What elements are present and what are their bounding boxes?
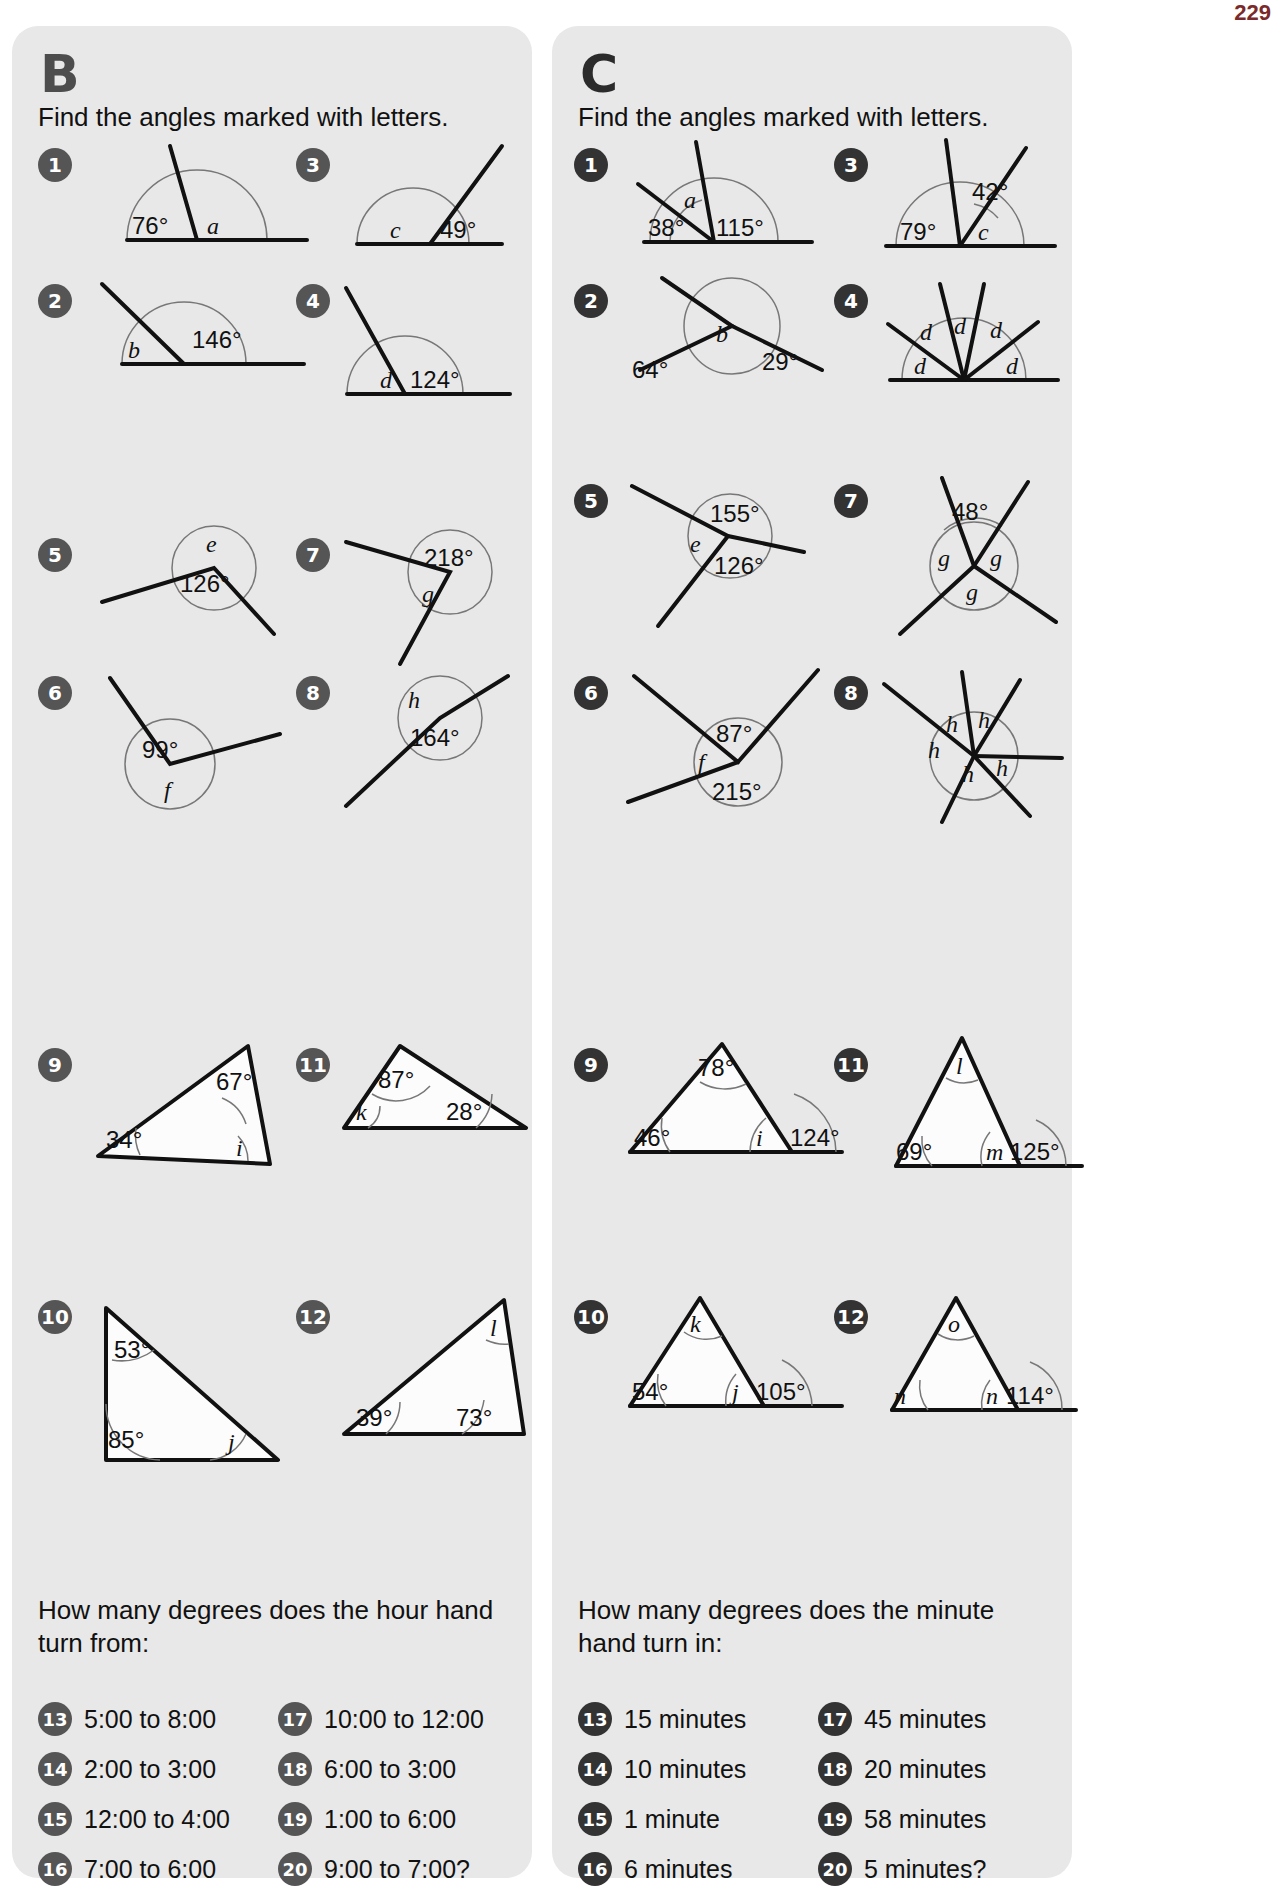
list-item[interactable]: 19 1:00 to 6:00: [278, 1802, 518, 1836]
figure-c10: k 54° j 105°: [614, 1288, 849, 1448]
figure-c11: l 69° m 125°: [870, 1028, 1085, 1198]
list-item[interactable]: 13 15 minutes: [578, 1702, 818, 1736]
list-item[interactable]: 13 5:00 to 8:00: [38, 1702, 278, 1736]
item-number-b5: 5: [38, 538, 72, 572]
label-b6-0: 99°: [142, 736, 178, 763]
label-c3-0: 42°: [972, 178, 1008, 205]
item-text-b20: 9:00 to 7:00?: [324, 1855, 470, 1884]
item-text-b16: 7:00 to 6:00: [84, 1855, 216, 1884]
page-number: 229: [1234, 0, 1271, 26]
item-number-b20: 20: [278, 1852, 312, 1886]
label-b4-0: d: [380, 367, 393, 393]
item-number-b17: 17: [278, 1702, 312, 1736]
list-item[interactable]: 15 1 minute: [578, 1802, 818, 1836]
figure-b5: e 126°: [92, 516, 322, 646]
item-text-b17: 10:00 to 12:00: [324, 1705, 484, 1734]
bottom-row: 15 1 minute 19 58 minutes: [578, 1794, 1058, 1844]
item-text-c13: 15 minutes: [624, 1705, 746, 1734]
figure-b2: b 146°: [92, 276, 322, 396]
label-c8-3: h: [962, 761, 974, 787]
item-number-c11: 11: [834, 1048, 868, 1082]
label-b12-1: 39°: [356, 1404, 392, 1431]
list-item[interactable]: 16 7:00 to 6:00: [38, 1852, 278, 1886]
label-c10-1: 54°: [632, 1378, 668, 1405]
list-item[interactable]: 20 5 minutes?: [818, 1852, 1058, 1886]
label-c9-2: i: [756, 1125, 763, 1151]
figure-b6: 99° f: [92, 666, 322, 826]
label-c11-2: m: [986, 1139, 1003, 1165]
exercise-panel-c: C Find the angles marked with letters. 1…: [552, 26, 1072, 1878]
item-number-c20: 20: [818, 1852, 852, 1886]
label-b8-0: h: [408, 687, 420, 713]
list-item[interactable]: 19 58 minutes: [818, 1802, 1058, 1836]
section-instruction-c: Find the angles marked with letters.: [578, 102, 1058, 133]
item-number-b2: 2: [38, 284, 72, 318]
item-number-c12: 12: [834, 1300, 868, 1334]
label-c5-0: 155°: [710, 500, 760, 527]
item-text-b13: 5:00 to 8:00: [84, 1705, 216, 1734]
bottom-row: 13 15 minutes 17 45 minutes: [578, 1694, 1058, 1744]
textbook-page: 229 B Find the angles marked with letter…: [0, 0, 1285, 1904]
label-b5-0: e: [206, 531, 217, 557]
bottom-question-c: How many degrees does the minute hand tu…: [578, 1594, 1058, 1659]
item-number-b19: 19: [278, 1802, 312, 1836]
label-b1-1: a: [207, 213, 219, 239]
item-number-c16: 16: [578, 1852, 612, 1886]
label-c5-2: 126°: [714, 552, 764, 579]
figure-c8: h h h h h: [870, 666, 1085, 831]
item-number-c10: 10: [574, 1300, 608, 1334]
figure-c1: a 38° 115°: [622, 134, 837, 264]
label-c1-0: a: [684, 187, 696, 213]
label-b9-2: i: [236, 1135, 243, 1161]
item-text-b14: 2:00 to 3:00: [84, 1755, 216, 1784]
list-item[interactable]: 18 20 minutes: [818, 1752, 1058, 1786]
list-item[interactable]: 17 10:00 to 12:00: [278, 1702, 518, 1736]
bottom-row: 13 5:00 to 8:00 17 10:00 to 12:00: [38, 1694, 518, 1744]
item-number-b3: 3: [296, 148, 330, 182]
label-c12-0: o: [948, 1311, 960, 1337]
label-c6-0: 87°: [716, 720, 752, 747]
item-text-c17: 45 minutes: [864, 1705, 986, 1734]
list-item[interactable]: 15 12:00 to 4:00: [38, 1802, 278, 1836]
figure-c3: 42° 79° c: [870, 134, 1075, 264]
item-number-c6: 6: [574, 676, 608, 710]
bottom-row: 15 12:00 to 4:00 19 1:00 to 6:00: [38, 1794, 518, 1844]
bottom-row: 16 6 minutes 20 5 minutes?: [578, 1844, 1058, 1894]
label-c9-1: 46°: [634, 1124, 670, 1151]
item-number-b9: 9: [38, 1048, 72, 1082]
label-c6-1: f: [698, 749, 708, 775]
item-text-b15: 12:00 to 4:00: [84, 1805, 230, 1834]
list-item[interactable]: 18 6:00 to 3:00: [278, 1752, 518, 1786]
label-c12-2: n: [986, 1383, 998, 1409]
item-number-c7: 7: [834, 484, 868, 518]
label-c3-2: c: [978, 219, 989, 245]
section-letter-b: B: [40, 44, 79, 104]
label-c10-0: k: [690, 1311, 701, 1337]
label-b10-1: 85°: [108, 1426, 144, 1453]
item-text-b18: 6:00 to 3:00: [324, 1755, 456, 1784]
list-item[interactable]: 14 10 minutes: [578, 1752, 818, 1786]
list-item[interactable]: 20 9:00 to 7:00?: [278, 1852, 518, 1886]
label-c6-2: 215°: [712, 778, 762, 805]
label-b11-0: 87°: [378, 1066, 414, 1093]
label-b11-1: k: [356, 1099, 367, 1125]
item-number-b1: 1: [38, 148, 72, 182]
list-item[interactable]: 17 45 minutes: [818, 1702, 1058, 1736]
label-b3-1: 49°: [440, 216, 476, 243]
label-c4-1: d: [954, 313, 967, 339]
figure-c7: 48° g g g: [870, 474, 1075, 644]
list-item[interactable]: 14 2:00 to 3:00: [38, 1752, 278, 1786]
label-b4-1: 124°: [410, 366, 460, 393]
list-item[interactable]: 16 6 minutes: [578, 1852, 818, 1886]
label-b9-1: 34°: [106, 1126, 142, 1153]
item-number-c3: 3: [834, 148, 868, 182]
figure-c12: o n n 114°: [870, 1288, 1085, 1448]
item-number-b7: 7: [296, 538, 330, 572]
item-number-b14: 14: [38, 1752, 72, 1786]
label-c7-0: 48°: [952, 498, 988, 525]
figure-b10: 53° 85° j: [88, 1298, 303, 1488]
label-b10-0: 53°: [114, 1336, 150, 1363]
label-b5-1: 126°: [180, 570, 230, 597]
item-number-b8: 8: [296, 676, 330, 710]
figure-b7: 218° g: [338, 516, 538, 671]
